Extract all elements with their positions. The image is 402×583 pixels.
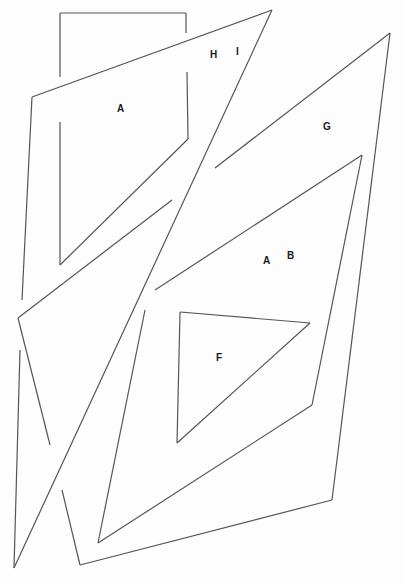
edge-line (187, 72, 188, 139)
edge-line (155, 155, 362, 290)
edge-line (18, 200, 172, 318)
edge-line (80, 500, 332, 565)
edge-line (312, 155, 362, 405)
region-label-a: A (117, 104, 124, 114)
edge-line (177, 312, 180, 443)
edge-line (332, 33, 390, 500)
edge-line (14, 350, 20, 568)
edge-line (18, 318, 50, 445)
region-label-i: I (236, 47, 239, 57)
diagram-canvas: AHIGABF (0, 0, 402, 583)
edge-line (215, 33, 390, 168)
edge-line (180, 312, 310, 323)
region-label-f: F (216, 353, 222, 363)
edge-line (98, 405, 312, 543)
edge-line (14, 10, 272, 568)
edge-line (62, 490, 80, 565)
polygon-lines (0, 0, 402, 583)
region-label-a: A (263, 256, 270, 266)
region-label-h: H (210, 50, 217, 60)
edge-line (22, 97, 32, 300)
edge-line (98, 310, 145, 543)
region-label-b: B (287, 251, 294, 261)
edge-line (177, 323, 310, 443)
region-label-g: G (323, 122, 331, 132)
